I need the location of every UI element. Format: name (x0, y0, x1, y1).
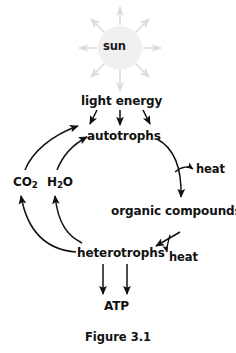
node-label-heat-autotrophs: heat (196, 164, 225, 176)
node-label-autotrophs: autotrophs (87, 130, 161, 142)
figure-container: sun light energy autotrophs CO2 H2O heat… (0, 0, 236, 353)
sun-ray-se-icon (136, 64, 149, 77)
h2o-formula-tail: O (63, 175, 73, 189)
node-label-organic-compounds: organic compounds (111, 205, 236, 217)
node-label-atp: ATP (104, 300, 129, 312)
figure-caption: Figure 3.1 (0, 330, 236, 344)
co2-formula-base: CO (13, 175, 32, 189)
h2o-formula-base: H (47, 175, 57, 189)
sun-ray-sw-icon (91, 64, 104, 77)
edges-heterotrophs-to-atp (103, 264, 127, 294)
edge-heterotrophs-to-co2 (21, 196, 76, 252)
edge-light-to-auto-left (90, 110, 97, 124)
edges-light-energy-to-autotrophs (90, 110, 150, 125)
edge-heterotrophs-to-h2o (55, 196, 82, 243)
edge-co2-to-autotrophs (25, 126, 78, 170)
node-label-heterotrophs: heterotrophs (77, 247, 165, 259)
sun-ray-ne-icon (136, 19, 149, 32)
edge-h2o-to-autotrophs (57, 137, 87, 170)
node-label-light-energy: light energy (81, 95, 162, 107)
node-label-heat-heterotrophs: heat (169, 252, 198, 264)
sun-ray-nw-icon (91, 19, 104, 32)
node-label-co2: CO2 (13, 176, 38, 190)
co2-formula-subscript: 2 (32, 180, 38, 190)
node-label-sun: sun (103, 41, 126, 53)
edge-light-to-auto-right (143, 110, 150, 124)
edge-autotrophs-to-organic-compounds (157, 139, 181, 197)
node-label-h2o: H2O (47, 176, 73, 190)
